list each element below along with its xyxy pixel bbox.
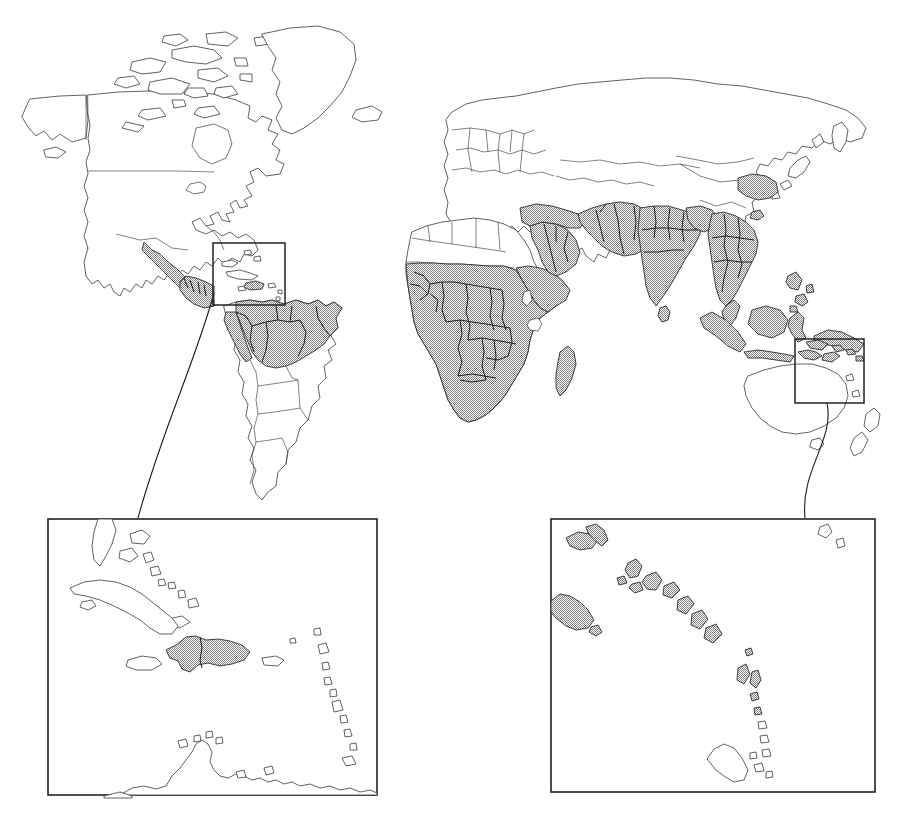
world-distribution-map: World distribution map with two regional…	[0, 0, 902, 819]
virgin-islands	[290, 638, 296, 643]
distribution-map-figure: World distribution map with two regional…	[0, 0, 902, 819]
